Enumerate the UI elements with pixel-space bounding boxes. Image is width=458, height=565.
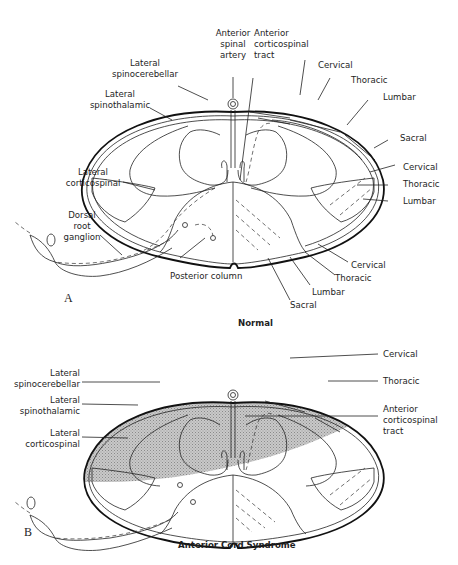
svg-text:Dorsalrootganglion: Dorsalrootganglion — [63, 210, 100, 242]
panel-letter-a: A — [64, 291, 73, 305]
svg-text:Lumbar: Lumbar — [383, 92, 416, 102]
svg-text:Sacral: Sacral — [400, 133, 427, 143]
svg-text:Lateralspinothalamic: Lateralspinothalamic — [90, 89, 151, 110]
svg-text:Sacral: Sacral — [290, 300, 317, 310]
anterior-spinal-artery-b — [228, 390, 238, 400]
svg-text:Lumbar: Lumbar — [312, 287, 345, 297]
svg-text:Thoracic: Thoracic — [334, 273, 372, 283]
svg-text:Thoracic: Thoracic — [402, 179, 440, 189]
svg-text:Lateralspinothalamic: Lateralspinothalamic — [20, 395, 81, 416]
svg-text:Lateralspinocerebellar: Lateralspinocerebellar — [14, 368, 80, 389]
svg-text:Thoracic: Thoracic — [382, 376, 420, 386]
svg-text:Lateralspinocerebellar: Lateralspinocerebellar — [112, 58, 178, 79]
caption-anterior-cord-syndrome: Anterior Cord Syndrome — [178, 540, 296, 550]
svg-text:Anteriorcorticospinaltract: Anteriorcorticospinaltract — [383, 404, 438, 436]
svg-text:Posterior column: Posterior column — [170, 271, 242, 281]
svg-text:Cervical: Cervical — [403, 162, 438, 172]
dorsal-root-b — [55, 512, 178, 551]
svg-text:Cervical: Cervical — [318, 60, 353, 70]
svg-text:Thoracic: Thoracic — [350, 75, 388, 85]
svg-text:Lateralcorticospinal: Lateralcorticospinal — [66, 167, 121, 188]
labels-a: Anteriorspinalartery Anteriorcorticospin… — [63, 28, 439, 328]
svg-text:Cervical: Cervical — [351, 260, 386, 270]
panel-letter-b: B — [24, 525, 32, 539]
svg-text:Lateralcorticospinal: Lateralcorticospinal — [25, 428, 80, 449]
spinal-cord-diagram: Anteriorspinalartery Anteriorcorticospin… — [0, 0, 458, 565]
svg-text:Cervical: Cervical — [383, 349, 418, 359]
caption-normal: Normal — [238, 318, 273, 328]
svg-text:Lumbar: Lumbar — [403, 196, 436, 206]
anterior-spinal-artery-a — [228, 99, 238, 109]
svg-text:Anteriorspinalartery: Anteriorspinalartery — [216, 28, 251, 60]
svg-text:Anteriorcorticospinaltract: Anteriorcorticospinaltract — [254, 28, 309, 60]
